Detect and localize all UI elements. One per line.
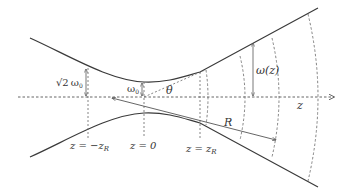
omega-text: ω [127,83,135,94]
z-minus-zr-text: z = −z [70,140,104,151]
label-z-minus-zr: z = −zR [70,141,109,153]
sqrt2-text: √2 [56,77,69,88]
label-z-plus-zr: z = zR [186,144,217,156]
label-sqrt2-omega0: √2ω0 [56,78,83,89]
label-theta: θ [166,85,173,96]
label-z-axis: z [297,100,303,111]
z-minus-zr-subscript: R [104,145,109,153]
divergence-asymptote [144,70,205,97]
z-plus-zr-subscript: R [211,148,216,156]
label-omega0: ω0 [127,84,139,95]
z-plus-zr-text: z = z [186,143,211,154]
omega-subscript: 0 [135,88,139,95]
label-radius: R [224,117,232,128]
label-omega-z: ω(z) [256,65,279,76]
radius-of-curvature-arrow [112,98,276,140]
omega-text: ω [71,77,79,88]
omega-subscript: 0 [79,82,83,89]
gaussian-beam-diagram [0,0,357,195]
label-z-zero: z = 0 [130,141,156,151]
